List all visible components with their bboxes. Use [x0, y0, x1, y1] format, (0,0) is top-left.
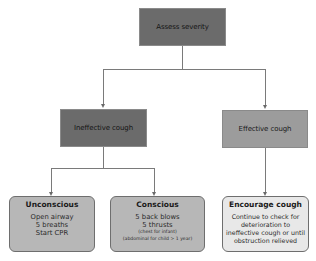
- connector-to-conscious: [154, 168, 155, 192]
- ineffective-cough-node: Ineffective cough: [60, 109, 147, 147]
- arrow-head-icon: [263, 105, 267, 109]
- unconscious-step: Open airway: [31, 213, 74, 221]
- unconscious-title: Unconscious: [26, 200, 79, 209]
- encourage-cough-text: deterioration to: [241, 221, 290, 229]
- conscious-title: Conscious: [136, 200, 178, 209]
- effective-cough-node: Effective cough: [222, 110, 308, 148]
- conscious-step: 5 back blows: [135, 213, 179, 221]
- assess-severity-label: Assess severity: [156, 23, 209, 31]
- conscious-node: Conscious 5 back blows 5 thrusts (chest …: [110, 196, 205, 252]
- connector-to-ineffective: [103, 69, 104, 105]
- connector-ineffective-down: [103, 147, 104, 168]
- arrow-head-icon: [101, 104, 105, 108]
- unconscious-step: Start CPR: [36, 229, 68, 237]
- encourage-cough-node: Encourage cough Continue to check for de…: [222, 196, 309, 252]
- connector-root-down: [182, 46, 183, 69]
- connector-to-effective: [265, 69, 266, 106]
- ineffective-cough-label: Ineffective cough: [74, 124, 133, 132]
- connector-root-branch: [103, 69, 266, 70]
- unconscious-step: 5 breaths: [36, 221, 68, 229]
- effective-cough-label: Effective cough: [239, 125, 292, 133]
- conscious-step: 5 thrusts: [142, 221, 172, 229]
- conscious-note: (abdominal for child > 1 year): [123, 236, 192, 243]
- connector-to-encourage: [265, 148, 266, 192]
- encourage-cough-text: Continue to check for: [232, 213, 300, 221]
- connector-to-unconscious: [51, 168, 52, 192]
- unconscious-node: Unconscious Open airway 5 breaths Start …: [9, 196, 95, 252]
- connector-ineffective-branch: [51, 168, 155, 169]
- assess-severity-node: Assess severity: [139, 8, 226, 46]
- encourage-cough-text: ineffective cough or until: [226, 229, 305, 237]
- encourage-cough-title: Encourage cough: [229, 200, 302, 209]
- encourage-cough-text: obstruction relieved: [234, 237, 297, 245]
